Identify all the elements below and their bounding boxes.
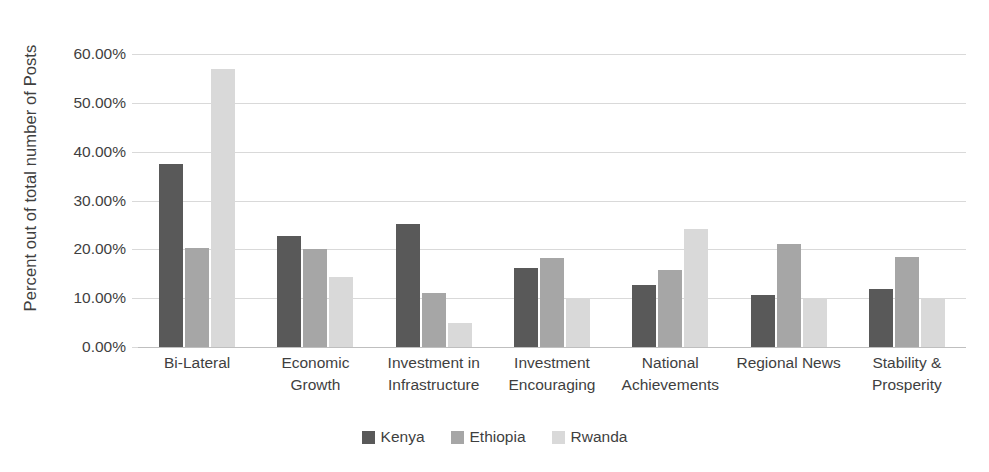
x-axis-category-label-line: Regional News bbox=[720, 352, 856, 374]
x-axis-category-label-line: Growth bbox=[247, 374, 383, 396]
legend-label: Rwanda bbox=[571, 428, 628, 446]
bar bbox=[566, 299, 590, 347]
x-axis-category-label-line: Prosperity bbox=[839, 374, 975, 396]
y-axis-tick-label: 20.00% bbox=[73, 240, 126, 258]
bar bbox=[422, 293, 446, 347]
x-axis-category-label-line: Bi-Lateral bbox=[129, 352, 265, 374]
legend-item-rwanda[interactable]: Rwanda bbox=[552, 428, 628, 446]
x-axis-category-label-line: Economic bbox=[247, 352, 383, 374]
x-axis-category-label-line: National bbox=[602, 352, 738, 374]
legend-label: Kenya bbox=[381, 428, 425, 446]
bar bbox=[448, 323, 472, 347]
bar bbox=[540, 258, 564, 347]
x-axis-category-label: EconomicGrowth bbox=[247, 352, 383, 396]
bar bbox=[211, 69, 235, 347]
legend-label: Ethiopia bbox=[470, 428, 526, 446]
x-axis-category-label: Stability &Prosperity bbox=[839, 352, 975, 396]
bar bbox=[803, 299, 827, 347]
bar-group bbox=[396, 54, 472, 347]
x-axis-category-label: Investment inInfrastructure bbox=[366, 352, 502, 396]
bar bbox=[921, 298, 945, 347]
legend-item-ethiopia[interactable]: Ethiopia bbox=[451, 428, 526, 446]
legend-swatch-icon bbox=[362, 431, 375, 444]
axis-baseline bbox=[138, 347, 966, 348]
x-axis-category-label-line: Infrastructure bbox=[366, 374, 502, 396]
bar-group bbox=[277, 54, 353, 347]
bar bbox=[277, 236, 301, 347]
bar bbox=[632, 285, 656, 348]
bar bbox=[514, 268, 538, 347]
y-axis-tick-labels: 60.00%50.00%40.00%30.00%20.00%10.00%0.00… bbox=[0, 54, 138, 347]
bar-group bbox=[632, 54, 708, 347]
x-axis-category-label-line: Investment in bbox=[366, 352, 502, 374]
bar-chart: Percent out of total number of Posts 60.… bbox=[0, 0, 989, 472]
bar-group bbox=[514, 54, 590, 347]
y-axis-tick-label: 60.00% bbox=[73, 45, 126, 63]
y-axis-tick-label: 0.00% bbox=[82, 338, 126, 356]
x-axis-category-label-line: Encouraging bbox=[484, 374, 620, 396]
x-axis-category-label: NationalAchievements bbox=[602, 352, 738, 396]
bar bbox=[396, 224, 420, 347]
x-axis-category-label: Bi-Lateral bbox=[129, 352, 265, 374]
legend-item-kenya[interactable]: Kenya bbox=[362, 428, 425, 446]
x-axis-category-label-line: Investment bbox=[484, 352, 620, 374]
bar bbox=[869, 289, 893, 347]
bar bbox=[329, 277, 353, 347]
x-axis-category-label: Regional News bbox=[720, 352, 856, 374]
chart-legend: KenyaEthiopiaRwanda bbox=[0, 428, 989, 446]
bar bbox=[303, 249, 327, 347]
bar bbox=[185, 248, 209, 347]
bars-layer bbox=[138, 54, 966, 347]
y-axis-tick-label: 50.00% bbox=[73, 94, 126, 112]
x-axis-category-label-line: Stability & bbox=[839, 352, 975, 374]
bar bbox=[684, 229, 708, 347]
bar bbox=[658, 270, 682, 347]
bar-group bbox=[869, 54, 945, 347]
x-axis-category-label: InvestmentEncouraging bbox=[484, 352, 620, 396]
x-axis-category-labels: Bi-LateralEconomicGrowthInvestment inInf… bbox=[138, 352, 966, 414]
legend-swatch-icon bbox=[552, 431, 565, 444]
x-axis-category-label-line: Achievements bbox=[602, 374, 738, 396]
y-axis-tick-label: 40.00% bbox=[73, 143, 126, 161]
bar bbox=[895, 257, 919, 347]
bar-group bbox=[159, 54, 235, 347]
legend-swatch-icon bbox=[451, 431, 464, 444]
y-axis-tick-label: 30.00% bbox=[73, 192, 126, 210]
bar bbox=[751, 295, 775, 347]
y-axis-tick-label: 10.00% bbox=[73, 289, 126, 307]
bar-group bbox=[751, 54, 827, 347]
bar bbox=[777, 244, 801, 347]
bar bbox=[159, 164, 183, 347]
